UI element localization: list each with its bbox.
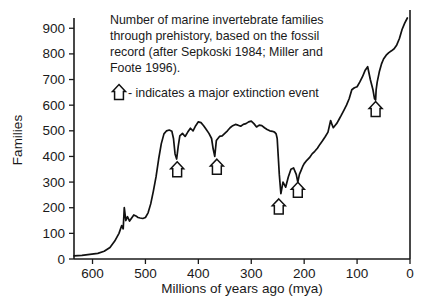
x-tick-label-600: 600: [81, 266, 104, 281]
y-tick-label-600: 600: [42, 98, 65, 113]
title-line-3: record (after Sepkoski 1984; Miller and: [110, 45, 323, 59]
legend: - indicates a major extinction event: [113, 85, 320, 101]
y-tick-label-0: 0: [57, 252, 65, 267]
y-tick-label-700: 700: [42, 72, 65, 87]
legend-up-arrow-icon: [113, 85, 126, 100]
y-tick-label-500: 500: [42, 123, 65, 138]
cretaceous-extinction-arrow-icon: [369, 102, 382, 117]
legend-label: - indicates a major extinction event: [128, 86, 319, 100]
x-tick-label-500: 500: [134, 266, 157, 281]
x-tick-label-300: 300: [240, 266, 263, 281]
x-tick-label-200: 200: [293, 266, 316, 281]
y-tick-label-300: 300: [42, 175, 65, 190]
devonian-extinction-arrow-icon: [210, 159, 223, 174]
y-tick-label-100: 100: [42, 226, 65, 241]
y-axis-ticks: 0100200300400500600700800900: [42, 21, 74, 267]
x-axis-title: Millions of years ago (mya): [161, 281, 322, 296]
x-axis-ticks: 6005004003002001000: [81, 259, 414, 281]
title-line-4: Foote 1996).: [110, 61, 180, 75]
x-tick-label-100: 100: [346, 266, 369, 281]
triassic-extinction-arrow-icon: [291, 182, 304, 197]
x-tick-label-400: 400: [187, 266, 210, 281]
chart-title-block: Number of marine invertebrate families t…: [110, 13, 323, 75]
y-tick-label-900: 900: [42, 21, 65, 36]
y-tick-label-800: 800: [42, 46, 65, 61]
marine-families-line-chart: 0100200300400500600700800900 60050040030…: [0, 0, 433, 305]
y-tick-label-200: 200: [42, 200, 65, 215]
extinction-event-markers: [171, 102, 382, 214]
y-tick-label-400: 400: [42, 149, 65, 164]
y-axis-title: Families: [10, 115, 25, 166]
up-arrow-outline-icon: [113, 85, 126, 100]
x-tick-label-0: 0: [406, 266, 414, 281]
permian-extinction-arrow-icon: [272, 199, 285, 214]
title-line-2: through prehistory, based on the fossil: [110, 29, 319, 43]
chart-figure: 0100200300400500600700800900 60050040030…: [0, 0, 433, 305]
title-line-1: Number of marine invertebrate families: [110, 13, 323, 27]
ordovician-extinction-arrow-icon: [171, 162, 184, 177]
